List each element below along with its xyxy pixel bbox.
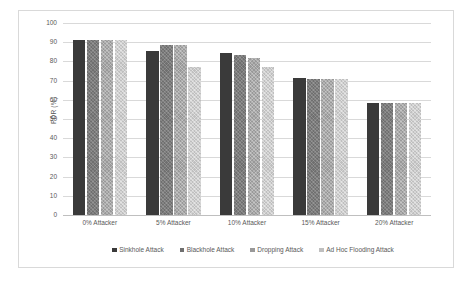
gridline [63, 215, 431, 216]
y-axis-tick-label: 40 [50, 135, 57, 142]
x-axis-tick-labels: 0% Attacker5% Attacker10% Attacker15% At… [63, 219, 431, 233]
x-axis-tick-label: 15% Attacker [301, 219, 339, 226]
bar[interactable] [146, 51, 159, 215]
legend-swatch-icon [319, 248, 324, 253]
bar[interactable] [115, 40, 128, 215]
plot-area [63, 23, 431, 215]
bar-group [210, 23, 284, 215]
chart-frame: PDR (%) 1009080706050403020100 0% Attack… [18, 10, 454, 268]
bar[interactable] [174, 45, 187, 215]
bar[interactable] [381, 103, 394, 215]
y-axis-tick-label: 80 [50, 58, 57, 65]
legend-label: Blackhole Attack [187, 247, 235, 254]
bar[interactable] [335, 79, 348, 215]
bar[interactable] [395, 103, 408, 216]
bar[interactable] [87, 40, 100, 215]
legend-label: Dropping Attack [257, 247, 303, 254]
bar[interactable] [307, 79, 320, 215]
y-axis-tick-label: 60 [50, 97, 57, 104]
bars-layer [63, 23, 431, 215]
bar[interactable] [321, 79, 334, 215]
bar[interactable] [234, 55, 247, 215]
legend-swatch-icon [180, 248, 185, 253]
y-axis-tick-labels: 1009080706050403020100 [19, 23, 61, 215]
legend-label: Sinkhole Attack [119, 247, 163, 254]
legend-item[interactable]: Ad Hoc Flooding Attack [319, 247, 394, 254]
bar[interactable] [188, 67, 201, 215]
legend-item[interactable]: Dropping Attack [250, 247, 303, 254]
bar[interactable] [367, 103, 380, 216]
bar[interactable] [73, 40, 86, 215]
bar[interactable] [101, 40, 114, 215]
y-axis-tick-label: 20 [50, 173, 57, 180]
chart-figure: PDR (%) 1009080706050403020100 0% Attack… [0, 0, 470, 284]
x-axis-tick-label: 10% Attacker [228, 219, 266, 226]
bar-group [357, 23, 431, 215]
y-axis-tick-label: 90 [50, 39, 57, 46]
bar-group [137, 23, 211, 215]
y-axis-tick-label: 0 [53, 212, 57, 219]
bar-group [63, 23, 137, 215]
bar[interactable] [409, 103, 422, 215]
bar[interactable] [220, 53, 233, 215]
bar[interactable] [293, 78, 306, 215]
x-axis-tick-label: 5% Attacker [156, 219, 191, 226]
chart-legend: Sinkhole AttackBlackhole AttackDropping … [63, 243, 443, 257]
legend-item[interactable]: Sinkhole Attack [112, 247, 163, 254]
y-axis-tick-label: 70 [50, 77, 57, 84]
y-axis-tick-label: 50 [50, 116, 57, 123]
legend-item[interactable]: Blackhole Attack [180, 247, 235, 254]
y-axis-tick-label: 100 [46, 20, 57, 27]
y-axis-tick-label: 30 [50, 154, 57, 161]
y-axis-tick-label: 10 [50, 193, 57, 200]
bar[interactable] [262, 67, 275, 215]
x-axis-tick-label: 0% Attacker [82, 219, 117, 226]
bar[interactable] [160, 45, 173, 215]
legend-label: Ad Hoc Flooding Attack [326, 247, 394, 254]
x-axis-tick-label: 20% Attacker [375, 219, 413, 226]
legend-swatch-icon [250, 248, 255, 253]
bar-group [284, 23, 358, 215]
legend-swatch-icon [112, 248, 117, 253]
bar[interactable] [248, 58, 261, 215]
